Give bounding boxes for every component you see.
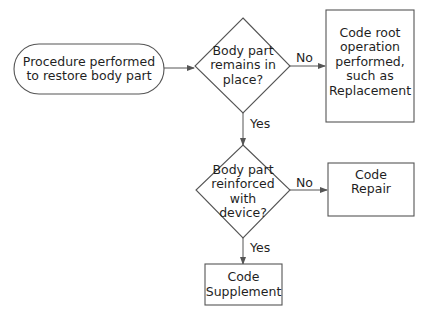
decision1-line-1: Body part [210,44,276,59]
outcome-root-label: Code root operation performed, such as R… [326,10,414,114]
outcome-root-line-1: Code root [329,26,411,41]
edge-label-decision1-yes: Yes [250,116,270,131]
outcome-supplement-line-1: Code [206,270,282,285]
outcome-repair-label: Code Repair [328,163,414,201]
start-terminal: Procedure performed to restore body part [14,44,164,94]
outcome-supplement-label: Code Supplement [205,264,282,305]
outcome-repair-line-1: Code [351,168,391,183]
outcome-root-line-3: performed, [329,55,411,70]
start-line-2: to restore body part [23,69,155,84]
outcome-supplement-line-2: Supplement [206,285,282,300]
edge-label-decision2-no: No [296,175,313,190]
outcome-root-line-2: operation [329,40,411,55]
edge-label-decision2-yes: Yes [250,240,270,255]
decision2-line-4: device? [211,206,274,221]
outcome-root-line-4: such as [329,69,411,84]
outcome-repair-line-2: Repair [351,182,391,197]
outcome-root-line-5: Replacement [329,84,411,99]
decision2-line-2: reinforced [211,177,274,192]
decision2-line-3: with [211,192,274,207]
edge-label-decision1-no: No [296,50,313,65]
decision1-line-2: remains in [210,58,276,73]
decision2-label: Body part reinforced with device? [196,145,290,238]
start-line-1: Procedure performed [23,55,155,70]
decision1-label: Body part remains in place? [195,18,291,113]
decision2-line-1: Body part [211,163,274,178]
decision1-line-3: place? [210,73,276,88]
